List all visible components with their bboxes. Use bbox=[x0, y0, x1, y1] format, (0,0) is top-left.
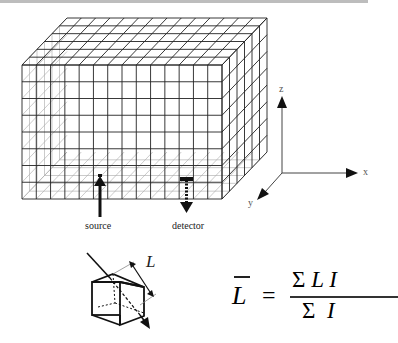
overline bbox=[234, 276, 250, 278]
denominator-terms: I bbox=[327, 298, 335, 323]
coordinate-axes bbox=[257, 96, 358, 200]
formula-numerator: Σ L I bbox=[292, 267, 337, 293]
mean-path-length-formula: L = Σ L I Σ I bbox=[232, 267, 382, 327]
sigma-symbol: Σ bbox=[302, 298, 315, 323]
axis-x-label: x bbox=[363, 166, 368, 177]
voxel-block bbox=[22, 18, 267, 199]
formula-lhs: L bbox=[232, 281, 246, 311]
detector-label: detector bbox=[172, 220, 204, 231]
formula-denominator: Σ I bbox=[302, 298, 335, 324]
axis-z-label: z bbox=[279, 83, 283, 94]
source-arrow-icon bbox=[94, 174, 106, 217]
formula-equals: = bbox=[262, 282, 276, 309]
path-length-label: L bbox=[146, 252, 155, 272]
sigma-symbol: Σ bbox=[292, 267, 305, 292]
numerator-terms: L I bbox=[311, 267, 337, 292]
source-label: source bbox=[85, 220, 111, 231]
axis-y-label: y bbox=[248, 197, 253, 208]
